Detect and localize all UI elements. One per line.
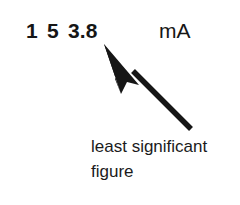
figure-root: 1 5 3.8 mA least significant figure [0, 0, 240, 205]
caption-line-2: figure [91, 159, 239, 184]
unit-label: mA [159, 18, 191, 44]
caption-line-1: least significant [91, 134, 239, 159]
caption: least significant figure [91, 134, 239, 184]
arrow-head-inner [104, 44, 121, 94]
reading-digit-2: 5 [47, 18, 59, 44]
reading-digit-3: 3.8 [68, 18, 98, 44]
meter-reading: 1 5 3.8 mA [0, 18, 240, 44]
arrow-shaft [133, 71, 191, 129]
reading-digit-1: 1 [26, 18, 38, 44]
arrow-head [104, 44, 139, 94]
